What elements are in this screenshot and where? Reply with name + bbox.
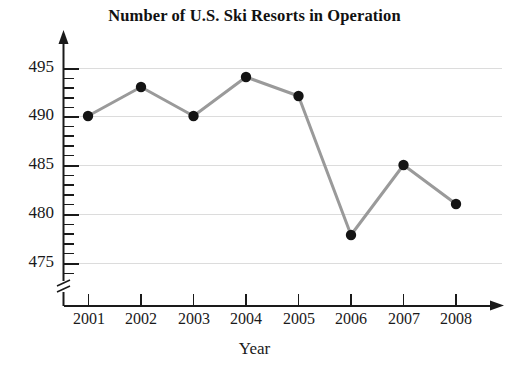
x-ticks xyxy=(89,294,457,305)
y-axis-break-icon xyxy=(57,280,70,292)
y-tick-label-490: 490 xyxy=(6,105,54,125)
data-point-2005[interactable] xyxy=(293,91,303,101)
chart-container: Number of U.S. Ski Resorts in Operation xyxy=(0,0,509,369)
x-axis-title: Year xyxy=(0,339,509,359)
gridlines xyxy=(63,69,502,264)
data-point-2002[interactable] xyxy=(136,82,146,92)
x-axis-arrowhead-icon xyxy=(490,301,504,311)
x-tick-label-2006: 2006 xyxy=(321,310,381,328)
x-tick-label-2008: 2008 xyxy=(426,310,486,328)
data-point-2003[interactable] xyxy=(188,111,198,121)
data-point-2008[interactable] xyxy=(451,199,461,209)
x-tick-label-2001: 2001 xyxy=(59,310,119,328)
data-point-2006[interactable] xyxy=(346,230,356,240)
y-tick-label-475: 475 xyxy=(6,252,54,272)
data-point-2001[interactable] xyxy=(83,111,93,121)
x-tick-label-2005: 2005 xyxy=(269,310,329,328)
y-tick-label-485: 485 xyxy=(6,154,54,174)
data-point-2004[interactable] xyxy=(241,72,251,82)
x-tick-label-2004: 2004 xyxy=(216,310,276,328)
x-tick-label-2003: 2003 xyxy=(164,310,224,328)
data-line xyxy=(88,77,456,235)
y-axis-arrowhead-icon xyxy=(59,30,69,44)
x-tick-label-2002: 2002 xyxy=(111,310,171,328)
x-tick-label-2007: 2007 xyxy=(374,310,434,328)
y-minor-ticks xyxy=(63,78,74,273)
y-tick-label-495: 495 xyxy=(6,57,54,77)
data-point-2007[interactable] xyxy=(398,160,408,170)
y-tick-label-480: 480 xyxy=(6,203,54,223)
